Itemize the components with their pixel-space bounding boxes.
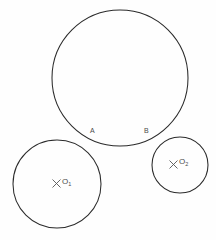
center-label-o1-subscript: 1	[68, 181, 71, 187]
large-circle	[52, 10, 188, 146]
point-label-b: B	[144, 127, 149, 134]
diagram-canvas: A B O1 O2	[0, 0, 216, 240]
center-mark-o2	[170, 161, 178, 169]
center-label-o2-subscript: 2	[185, 161, 188, 167]
point-label-a: A	[90, 127, 95, 134]
center-mark-o1	[53, 180, 61, 188]
geometry-drawing	[0, 0, 216, 240]
center-label-o2: O2	[179, 158, 188, 166]
center-label-o1: O1	[62, 178, 71, 186]
